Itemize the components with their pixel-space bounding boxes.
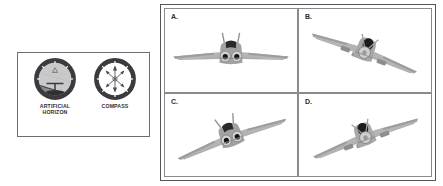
- option-c[interactable]: C.: [164, 93, 298, 178]
- option-d-letter: D.: [305, 98, 312, 105]
- option-a[interactable]: A.: [164, 8, 298, 93]
- artificial-horizon-gauge: ARTIFICIAL HORIZON: [26, 57, 84, 116]
- aircraft-prop-banked-climbing: [299, 94, 431, 177]
- artificial-horizon-dial: [33, 57, 77, 101]
- aircraft-jet-banked-climbing: [165, 94, 297, 177]
- instrument-panel: ARTIFICIAL HORIZON: [17, 52, 150, 137]
- answer-options-grid: A.: [164, 8, 432, 177]
- option-b-letter: B.: [305, 13, 312, 20]
- option-d[interactable]: D.: [298, 93, 432, 178]
- option-c-letter: C.: [171, 98, 178, 105]
- answer-options-frame: A.: [160, 4, 436, 181]
- compass-gauge: COMPASS: [86, 57, 144, 109]
- aircraft-prop-banked-descending: [299, 9, 431, 92]
- artificial-horizon-label: ARTIFICIAL HORIZON: [40, 103, 70, 116]
- option-a-letter: A.: [171, 13, 178, 20]
- compass-dial: [93, 57, 137, 101]
- aircraft-jet-level: [165, 9, 297, 92]
- option-b[interactable]: B.: [298, 8, 432, 93]
- compass-label: COMPASS: [102, 103, 129, 109]
